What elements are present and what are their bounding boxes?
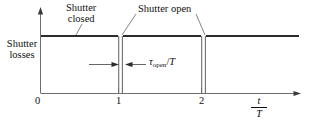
xtick-label-2: 2 bbox=[199, 95, 204, 106]
shutter-closed-leader bbox=[76, 24, 82, 35]
shutter-losses-chart: Shutter closed Shutter open Shutter loss… bbox=[0, 0, 309, 125]
tau-period: T bbox=[169, 56, 175, 67]
x-axis-label: t T bbox=[251, 95, 267, 119]
shutter-open-leaders bbox=[122, 14, 205, 35]
shutter-losses-line2: losses bbox=[9, 49, 34, 60]
annotation-shutter-closed: Shutter closed bbox=[66, 2, 96, 24]
y-axis-label: Shutter losses bbox=[2, 38, 42, 60]
xtick-label-0: 0 bbox=[35, 95, 40, 106]
x-axis-label-numerator: t bbox=[251, 95, 267, 108]
xtick-label-1: 1 bbox=[116, 95, 121, 106]
annotation-shutter-open: Shutter open bbox=[138, 3, 191, 14]
shutter-closed-line2: closed bbox=[68, 13, 95, 24]
shutter-closed-line1: Shutter bbox=[66, 2, 96, 13]
tau-subscript: open bbox=[153, 61, 167, 69]
x-axis-label-denominator: T bbox=[251, 108, 267, 120]
tau-dimension-arrows bbox=[89, 62, 146, 67]
shutter-losses-line1: Shutter bbox=[7, 38, 37, 49]
annotation-tau-open-over-t: τopen/T bbox=[149, 56, 175, 69]
